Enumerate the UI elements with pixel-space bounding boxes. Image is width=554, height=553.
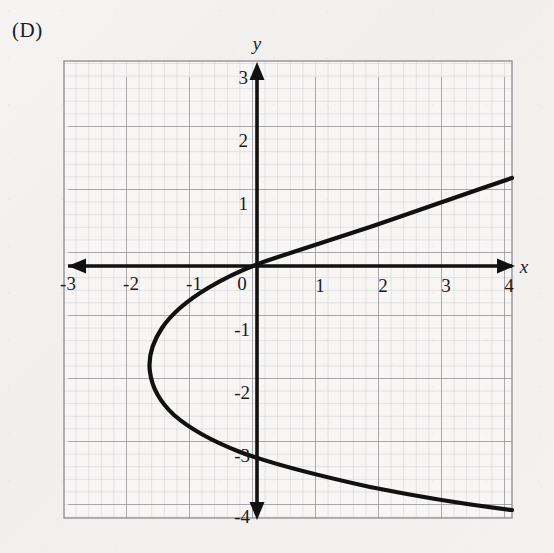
x-tick-label--2: -2 <box>123 273 139 294</box>
y-tick-label--4: -4 <box>234 506 250 527</box>
x-tick-label--3: -3 <box>60 273 76 294</box>
coordinate-plane-graph: -3 -2 -1 0 1 2 3 4 3 2 1 -1 -2 -3 -4 x y <box>0 0 554 553</box>
y-tick-label--1: -1 <box>234 319 250 340</box>
x-tick-label-2: 2 <box>378 275 388 296</box>
y-axis-label: y <box>251 33 262 54</box>
graph-container: -3 -2 -1 0 1 2 3 4 3 2 1 -1 -2 -3 -4 x y <box>0 0 554 553</box>
x-axis-label: x <box>519 256 529 277</box>
y-tick-label-1: 1 <box>239 193 249 214</box>
y-tick-label-2: 2 <box>239 130 249 151</box>
y-tick-label--2: -2 <box>234 382 250 403</box>
y-tick-label--3: -3 <box>234 445 250 466</box>
y-tick-label-3: 3 <box>239 67 249 88</box>
grid-area <box>64 61 516 534</box>
x-tick-label-3: 3 <box>441 275 451 296</box>
x-tick-label-1: 1 <box>315 275 325 296</box>
x-tick-label--1: -1 <box>186 273 202 294</box>
x-tick-label-0: 0 <box>237 273 247 294</box>
x-tick-label-4: 4 <box>504 275 514 296</box>
